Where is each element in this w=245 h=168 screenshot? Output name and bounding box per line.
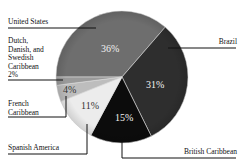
pie-edge-shade — [56, 11, 188, 143]
label-british-caribbean: British Caribbean — [184, 148, 237, 157]
pct-us: 36% — [101, 43, 119, 54]
label-united-states: United States — [8, 18, 48, 27]
label-line: 2% — [8, 71, 44, 80]
pct-spanish: 11% — [81, 100, 99, 111]
pct-brazil: 31% — [146, 79, 164, 90]
pct-french: 4% — [63, 84, 76, 95]
label-brazil: Brazil — [219, 38, 237, 47]
label-french-caribbean: French Caribbean — [8, 100, 39, 117]
label-line: Caribbean — [8, 109, 39, 118]
label-spanish-america: Spanish America — [8, 144, 59, 153]
pct-british: 15% — [115, 112, 133, 123]
label-dutch-danish-swedish: Dutch, Danish, and Swedish Caribbean 2% — [8, 37, 44, 80]
